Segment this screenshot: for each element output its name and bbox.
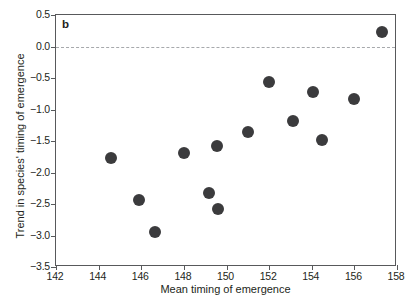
y-tick (51, 236, 56, 237)
zero-line (56, 47, 395, 48)
y-tick-label: −0.5 (30, 71, 50, 83)
scatter-point (287, 115, 299, 127)
scatter-point (348, 93, 360, 105)
x-tick-label: 152 (260, 270, 277, 282)
x-tick-label: 158 (388, 270, 405, 282)
scatter-point (211, 140, 223, 152)
y-tick (51, 78, 56, 79)
y-tick-label: 0.0 (36, 40, 50, 52)
scatter-point (178, 147, 190, 159)
scatter-point (242, 126, 254, 138)
y-tick-label: −1.0 (30, 103, 50, 115)
x-tick-label: 156 (345, 270, 362, 282)
x-tick-label: 146 (132, 270, 149, 282)
scatter-point (376, 26, 388, 38)
y-tick-label: −2.5 (30, 197, 50, 209)
x-axis-title: Mean timing of emergence (55, 283, 396, 295)
y-tick (51, 141, 56, 142)
y-tick-label: −1.5 (30, 134, 50, 146)
scatter-point (212, 203, 224, 215)
x-tick-label: 154 (302, 270, 319, 282)
scatter-point (263, 76, 275, 88)
panel-label: b (62, 18, 69, 30)
y-tick-label: −2.0 (30, 166, 50, 178)
scatter-point (203, 187, 215, 199)
y-tick (51, 173, 56, 174)
scatter-point (149, 226, 161, 238)
y-tick (51, 110, 56, 111)
scatter-point (105, 152, 117, 164)
y-tick (51, 15, 56, 16)
x-tick-label: 144 (89, 270, 106, 282)
figure-panel-b: Trend in species' timing of emergence 0.… (0, 0, 407, 300)
y-tick (51, 204, 56, 205)
x-tick-label: 142 (47, 270, 64, 282)
y-axis-labels: 0.50.0−0.5−1.0−1.5−2.0−2.5−3.0−3.5 (0, 0, 50, 300)
x-tick-label: 150 (217, 270, 234, 282)
scatter-point (307, 86, 319, 98)
scatter-point (316, 134, 328, 146)
y-tick-label: −3.0 (30, 229, 50, 241)
scatter-point (133, 194, 145, 206)
x-tick-label: 148 (174, 270, 191, 282)
plot-area (55, 14, 396, 266)
y-tick-label: 0.5 (36, 8, 50, 20)
